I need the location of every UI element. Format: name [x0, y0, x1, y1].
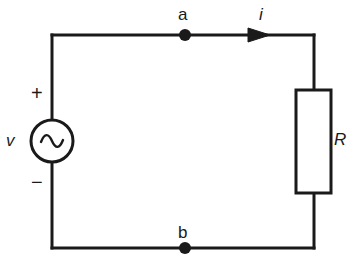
- label-polarity-minus: −: [31, 172, 43, 192]
- label-polarity-plus: +: [31, 83, 43, 103]
- label-node-a: a: [178, 6, 187, 23]
- circuit-schematic-graphic: [0, 0, 354, 265]
- circuit-diagram-canvas: a b i v R + −: [0, 0, 354, 265]
- node-dot-b: [179, 242, 191, 254]
- label-current-i: i: [259, 6, 263, 23]
- resistor-box: [296, 90, 331, 193]
- label-resistance-r: R: [334, 131, 346, 148]
- wire-group: [52, 35, 314, 248]
- label-node-b: b: [178, 224, 187, 241]
- node-dot-a: [179, 29, 191, 41]
- label-voltage-v: v: [6, 132, 15, 149]
- current-arrow-icon: [248, 28, 270, 42]
